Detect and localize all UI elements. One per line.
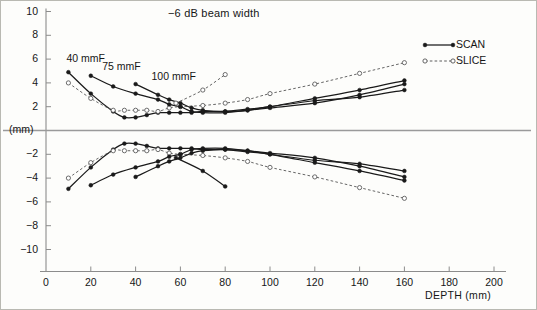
filled-circle-marker [111,173,115,177]
y-axis-tick-label: −10 [8,243,38,255]
data-series [174,156,227,188]
open-circle-marker [156,109,160,113]
open-circle-marker [246,159,250,163]
x-axis-tick-label: 80 [210,276,240,288]
filled-circle-marker [89,74,93,78]
open-circle-marker [223,72,227,76]
open-circle-marker [89,96,93,100]
x-axis-tick-label: 160 [389,276,419,288]
x-axis-tick-label: 180 [434,276,464,288]
filled-circle-marker [403,82,407,86]
open-circle-marker [358,71,362,75]
filled-circle-marker [67,187,71,191]
open-circle-marker [122,108,126,112]
y-axis-unit-label: (mm) [9,123,34,135]
filled-circle-marker [167,160,171,164]
filled-circle-marker [403,169,407,173]
filled-circle-marker [403,88,407,92]
filled-circle-marker [167,146,171,150]
filled-circle-marker [190,106,194,110]
legend-sample-slice [423,59,455,63]
open-circle-marker [111,149,115,153]
data-series [66,147,406,200]
open-circle-marker [111,108,115,112]
chart-title: −6 dB beam width [168,7,260,19]
x-axis-tick-label: 40 [121,276,151,288]
legend-open-circle-marker [423,59,427,63]
filled-circle-marker [358,169,362,173]
chart-figure: −6 dB beam width (mm) DEPTH (mm) 108642−… [0,0,537,310]
filled-circle-marker [223,110,227,114]
y-axis-tick-label: −4 [8,171,38,183]
y-axis-tick-label: −8 [8,219,38,231]
open-circle-marker [145,108,149,112]
legend-label-slice: SLICE [456,54,486,66]
filled-circle-marker [223,148,227,152]
filled-circle-marker [179,105,183,109]
filled-circle-marker [403,179,407,183]
filled-circle-marker [223,185,227,189]
open-circle-marker [156,147,160,151]
open-circle-marker [134,149,138,153]
filled-circle-marker [403,175,407,179]
filled-circle-marker [201,108,205,112]
filled-circle-marker [134,92,138,96]
filled-circle-marker [134,142,138,146]
y-axis-tick-label: 8 [8,28,38,40]
filled-circle-marker [190,110,194,114]
filled-circle-marker [403,79,407,83]
filled-circle-marker [246,107,250,111]
open-circle-marker [66,176,70,180]
series-line [176,158,225,187]
y-axis-tick-label: 4 [8,76,38,88]
filled-circle-marker [179,111,183,115]
open-circle-marker [246,97,250,101]
filled-circle-marker [89,92,93,96]
open-circle-marker [66,81,70,85]
filled-circle-marker [89,165,93,169]
legend-sample-scan [423,43,455,47]
filled-circle-marker [190,151,194,155]
x-axis-tick-label: 200 [479,276,509,288]
filled-circle-marker [156,164,160,168]
filled-circle-marker [111,85,115,89]
x-axis-tick-label: 140 [345,276,375,288]
filled-circle-marker [179,152,183,156]
x-axis-tick-label: 60 [165,276,195,288]
open-circle-marker [223,101,227,105]
y-axis-tick-label: 2 [8,100,38,112]
x-axis-tick-label: 120 [300,276,330,288]
filled-circle-marker [174,156,178,160]
open-circle-marker [145,149,149,153]
open-circle-marker [402,196,406,200]
filled-circle-marker [201,149,205,153]
open-circle-marker [402,61,406,65]
open-circle-marker [174,101,178,105]
y-axis-tick-label: −2 [8,147,38,159]
filled-circle-marker [313,161,317,165]
x-axis-title: DEPTH (mm) [425,289,491,301]
filled-circle-marker [358,88,362,92]
legend-filled-circle-marker [423,43,427,47]
open-circle-marker [89,161,93,165]
filled-circle-marker [358,164,362,168]
filled-circle-marker [246,150,250,154]
y-axis-tick-label: 10 [8,5,38,17]
filled-circle-marker [313,156,317,160]
x-axis-tick-label: 0 [31,276,61,288]
series-annotation-label: 100 mmF [152,70,196,82]
series-annotation-label: 75 mmF [102,60,141,72]
filled-circle-marker [268,152,272,156]
legend-open-circle-marker [451,59,455,63]
open-circle-marker [201,88,205,92]
open-circle-marker [201,153,205,157]
open-circle-marker [268,165,272,169]
legend-label-scan: SCAN [456,38,485,50]
filled-circle-marker [156,98,160,102]
x-axis-tick-label: 100 [255,276,285,288]
open-circle-marker [134,108,138,112]
filled-circle-marker [167,98,171,102]
x-axis-tick-label: 20 [76,276,106,288]
filled-circle-marker [67,70,71,74]
open-circle-marker [313,175,317,179]
